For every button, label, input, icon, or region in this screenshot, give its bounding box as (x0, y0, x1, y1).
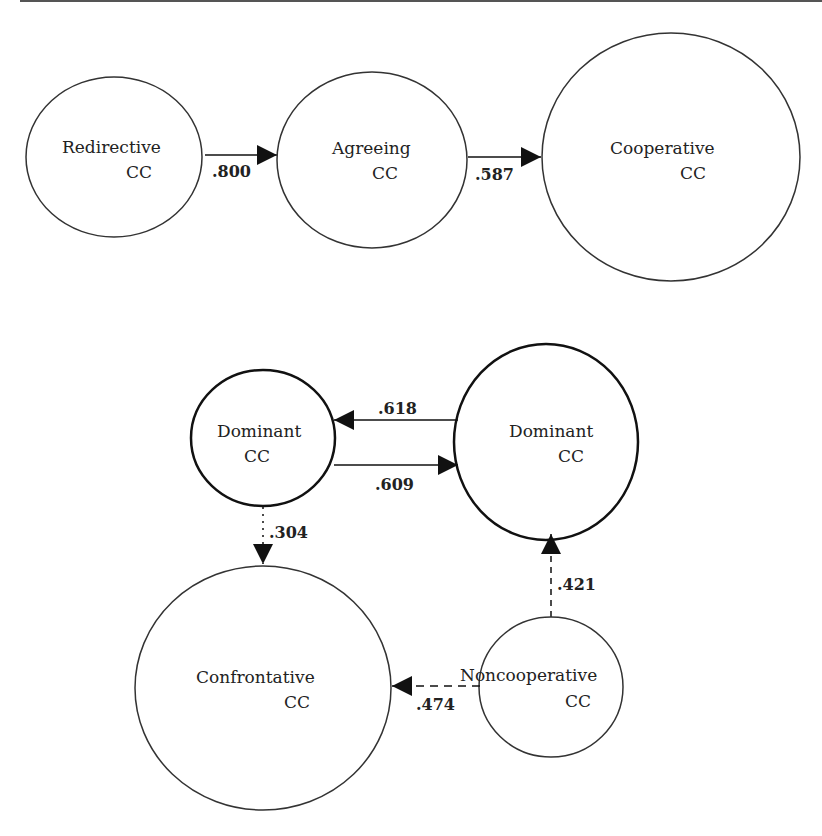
node-cooperative: Cooperative CC (542, 33, 800, 281)
node-agreeing: Agreeing CC (277, 72, 467, 248)
node-confrontative: Confrontative CC (135, 566, 391, 810)
edge-value: .587 (475, 165, 514, 184)
node-sublabel: CC (244, 446, 270, 466)
edge-agreeing-cooperative: .587 (468, 157, 541, 184)
node-dominant-left: Dominant CC (191, 370, 335, 506)
node-sublabel: CC (565, 691, 591, 711)
node-label: Redirective (62, 137, 161, 157)
node-label: Dominant (217, 421, 301, 441)
edge-value: .618 (378, 399, 417, 418)
node-redirective: Redirective CC (26, 77, 202, 237)
edge-dominant-left-to-right: .609 (334, 465, 458, 494)
node-label: Cooperative (610, 138, 715, 158)
node-sublabel: CC (126, 162, 152, 182)
edge-noncooperative-to-dominant-right: .421 (551, 534, 596, 617)
edge-noncooperative-to-confrontative: .474 (392, 686, 480, 714)
node-label: Confrontative (196, 667, 315, 687)
node-sublabel: CC (680, 163, 706, 183)
node-label: Dominant (509, 421, 593, 441)
node-sublabel: CC (558, 446, 584, 466)
edge-value: .304 (269, 523, 308, 542)
node-noncooperative: Noncooperative CC (460, 617, 623, 757)
edge-value: .474 (416, 695, 455, 714)
transition-diagram: Redirective CC .800 Agreeing CC .587 Coo… (0, 0, 822, 836)
edge-dominant-right-to-left: .618 (334, 399, 458, 420)
edge-value: .421 (557, 575, 596, 594)
node-sublabel: CC (284, 692, 310, 712)
edge-value: .609 (375, 475, 414, 494)
edge-value: .800 (212, 162, 251, 181)
edge-dominant-left-to-confrontative: .304 (263, 507, 308, 564)
edge-redirective-agreeing: .800 (205, 155, 277, 181)
node-sublabel: CC (372, 163, 398, 183)
node-label: Agreeing (331, 138, 411, 158)
node-label: Noncooperative (460, 665, 597, 685)
node-dominant-right: Dominant CC (454, 344, 638, 540)
